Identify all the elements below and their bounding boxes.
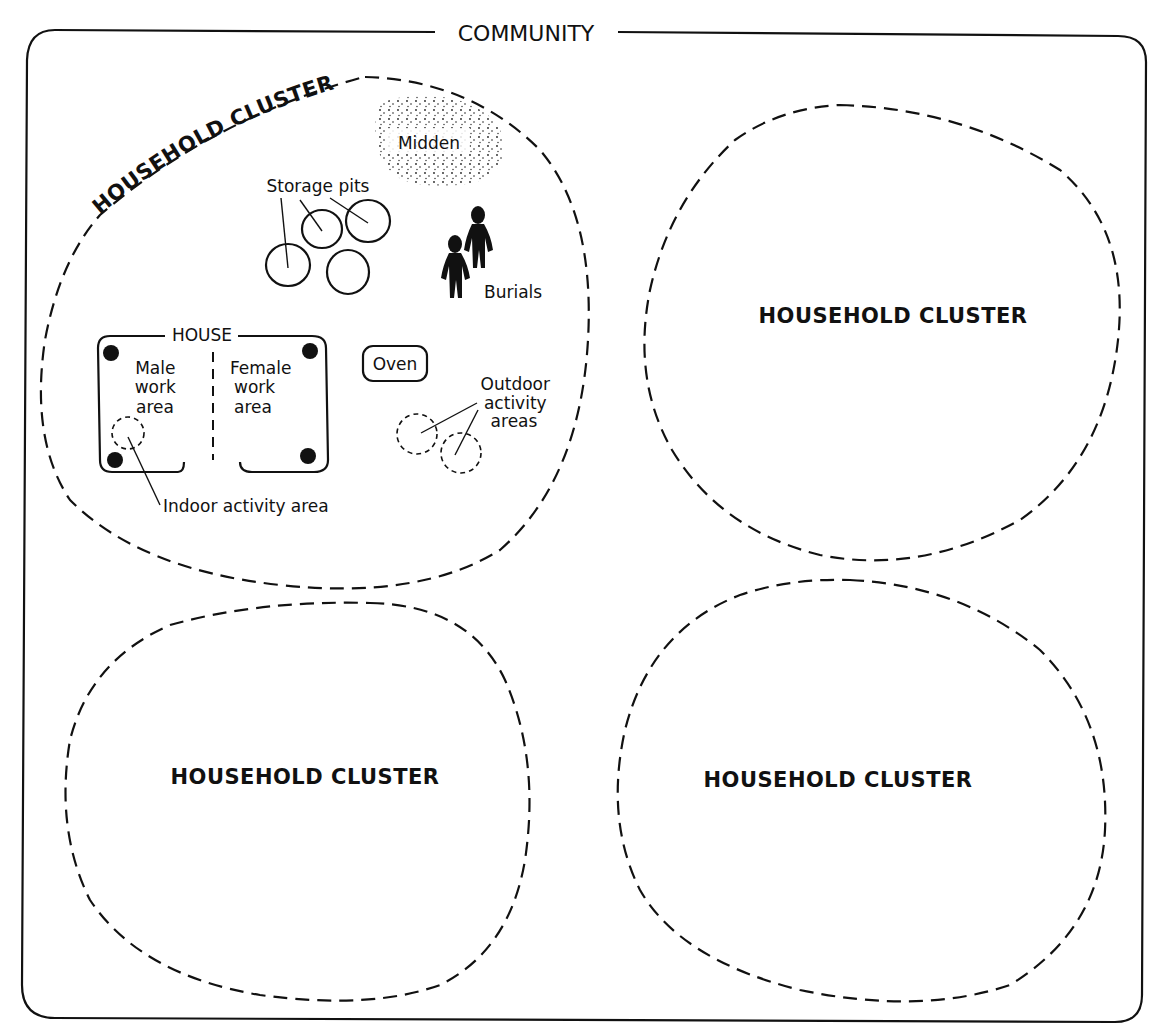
storage-pits: Storage pits bbox=[266, 176, 390, 294]
household-cluster-detailed: HOUSEHOLD CLUSTER Midden Storage pits bbox=[41, 70, 589, 588]
female-work-area: Female work area bbox=[230, 358, 297, 417]
storage-pit bbox=[302, 210, 342, 248]
burial-figure-icon bbox=[464, 206, 493, 268]
household-cluster-bottom-left: HOUSEHOLD CLUSTER bbox=[66, 603, 530, 1001]
community-diagram: COMMUNITY HOUSEHOLD CLUSTER Midden Stora… bbox=[0, 0, 1166, 1036]
svg-text:Burials: Burials bbox=[484, 282, 542, 302]
svg-text:Storage pits: Storage pits bbox=[267, 176, 370, 196]
household-cluster-top-right: HOUSEHOLD CLUSTER bbox=[644, 105, 1119, 560]
household-cluster-bottom-right: HOUSEHOLD CLUSTER bbox=[618, 580, 1106, 1002]
midden: Midden bbox=[375, 96, 505, 186]
community-label: COMMUNITY bbox=[458, 21, 595, 46]
post-hole bbox=[302, 343, 318, 359]
indoor-activity-area bbox=[112, 417, 144, 449]
svg-text:HOUSEHOLD CLUSTER: HOUSEHOLD CLUSTER bbox=[758, 304, 1027, 328]
post-hole bbox=[103, 345, 119, 361]
post-hole bbox=[107, 452, 123, 468]
svg-text:Outdoor activity: Outdoor activity areas bbox=[481, 374, 556, 431]
burials: Burials bbox=[441, 206, 542, 302]
svg-text:HOUSE: HOUSE bbox=[172, 325, 232, 345]
community-boundary: COMMUNITY bbox=[22, 21, 1146, 1022]
storage-pit bbox=[327, 250, 369, 294]
svg-text:Indoor activity area: Indoor activity area bbox=[163, 496, 329, 516]
svg-text:Midden: Midden bbox=[398, 133, 460, 153]
cluster-label-curved: HOUSEHOLD CLUSTER bbox=[88, 70, 337, 218]
house: HOUSE Male work area Female work area In… bbox=[98, 325, 329, 516]
svg-text:HOUSEHOLD CLUSTER: HOUSEHOLD CLUSTER bbox=[170, 765, 439, 789]
svg-text:Oven: Oven bbox=[373, 354, 418, 374]
svg-text:HOUSEHOLD CLUSTER: HOUSEHOLD CLUSTER bbox=[703, 768, 972, 792]
outdoor-activity-areas: Outdoor activity areas bbox=[397, 374, 555, 473]
post-hole bbox=[300, 448, 316, 464]
male-work-area: Male work area bbox=[135, 358, 182, 417]
storage-pit bbox=[346, 200, 390, 242]
oven: Oven bbox=[363, 346, 427, 381]
